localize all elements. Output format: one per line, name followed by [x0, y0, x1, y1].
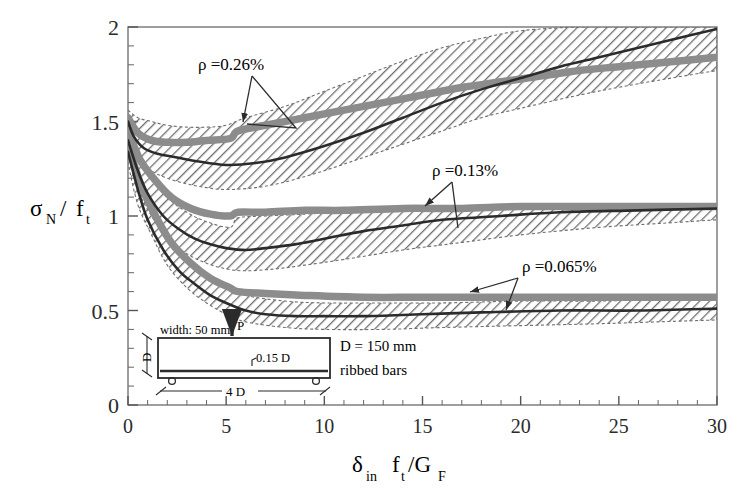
y-axis-sigma: σ	[30, 196, 43, 221]
x-tick-label: 10	[314, 415, 334, 437]
inset-bar-type: ribbed bars	[340, 362, 407, 378]
y-tick-label: 1.5	[92, 110, 120, 135]
figure-root: P width: 50 mm 0.15 D D 4 D D = 150 mm r…	[0, 0, 749, 494]
y-axis-f-subscript: t	[86, 212, 90, 227]
y-axis-sigma-subscript: N	[46, 212, 56, 227]
x-tick-label: 25	[609, 415, 629, 437]
x-tick-label: 5	[221, 415, 231, 437]
inset-span-note: 4 D	[226, 384, 245, 399]
x-axis-delta-subscript: in	[366, 469, 377, 484]
inset-depth-note: D	[139, 353, 154, 362]
inset-cover-note: 0.15 D	[256, 351, 290, 365]
x-tick-label: 30	[707, 415, 727, 437]
inset-width-note: width: 50 mm	[160, 323, 230, 337]
y-axis-slash: /	[60, 196, 67, 221]
annotation-rho-0065: ρ =0.065%	[522, 257, 597, 276]
x-tick-label: 15	[413, 415, 433, 437]
x-axis-f: f	[392, 452, 400, 477]
x-axis-f-subscript: t	[401, 469, 405, 484]
chart-canvas: P width: 50 mm 0.15 D D 4 D D = 150 mm r…	[0, 0, 749, 494]
y-tick-label: 0.5	[92, 299, 120, 324]
y-tick-label: 0	[108, 393, 119, 418]
x-axis-rest: /G	[408, 452, 431, 477]
x-axis-delta: δ	[352, 452, 363, 477]
x-tick-label: 0	[123, 415, 133, 437]
inset-depth-value: D = 150 mm	[340, 338, 417, 354]
annotation-rho-026: ρ =0.26%	[198, 55, 264, 74]
x-axis-rest-subscript: F	[438, 469, 446, 484]
y-tick-label: 2	[108, 15, 119, 40]
x-tick-label: 20	[511, 415, 531, 437]
y-tick-label: 1	[108, 204, 119, 229]
inset-load-label: P	[237, 318, 244, 333]
y-axis-f: f	[76, 196, 84, 221]
annotation-rho-013: ρ =0.13%	[432, 161, 498, 180]
